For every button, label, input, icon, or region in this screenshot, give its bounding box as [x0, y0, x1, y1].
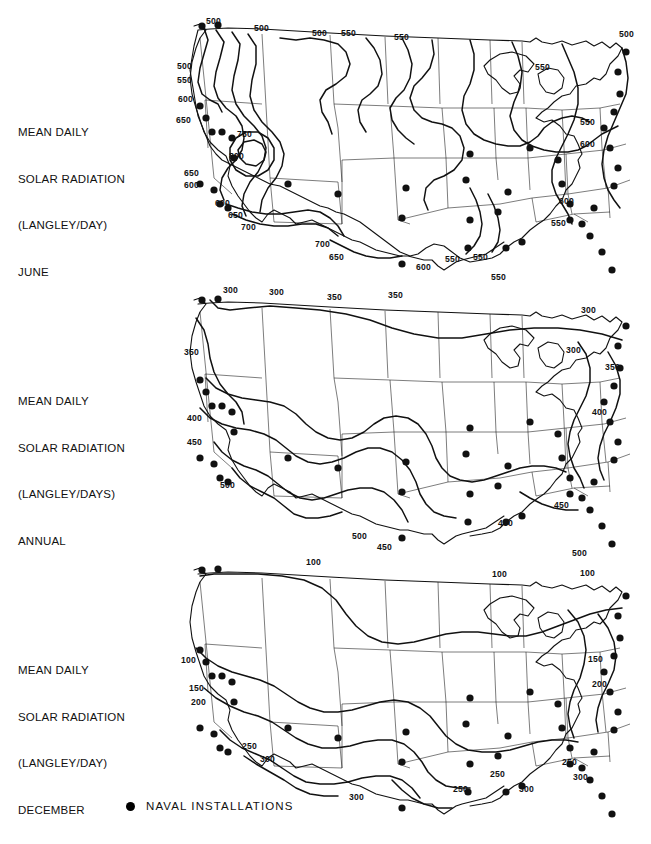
svg-text:550: 550: [177, 75, 192, 85]
svg-text:500: 500: [177, 61, 192, 71]
caption-line: (LANGLEY/DAY): [18, 218, 125, 234]
map-june[interactable]: 500 500 500 550 550 500 550 500 550 600 …: [170, 8, 651, 286]
svg-text:450: 450: [554, 500, 569, 510]
svg-text:250: 250: [490, 769, 505, 779]
map-annual[interactable]: 300 300 350 350 300 350 300 350 400 400 …: [170, 282, 651, 560]
svg-text:150: 150: [588, 654, 603, 664]
svg-text:400: 400: [592, 407, 607, 417]
legend-label: NAVAL INSTALLATIONS: [146, 800, 293, 812]
svg-text:100: 100: [580, 568, 595, 578]
svg-text:700: 700: [315, 239, 330, 249]
svg-text:600: 600: [184, 180, 199, 190]
legend: NAVAL INSTALLATIONS: [126, 800, 293, 812]
caption-line: SOLAR RADIATION: [18, 710, 125, 726]
svg-text:200: 200: [592, 679, 607, 689]
svg-text:600: 600: [580, 139, 595, 149]
svg-text:600: 600: [559, 196, 574, 206]
svg-text:300: 300: [223, 285, 238, 295]
svg-text:350: 350: [605, 362, 620, 372]
svg-text:450: 450: [187, 437, 202, 447]
svg-text:550: 550: [341, 28, 356, 38]
svg-text:200: 200: [191, 697, 206, 707]
svg-text:550: 550: [580, 117, 595, 127]
svg-text:500: 500: [220, 480, 235, 490]
svg-text:600: 600: [178, 94, 193, 104]
svg-text:500: 500: [206, 16, 221, 26]
svg-text:550: 550: [445, 254, 460, 264]
svg-text:600: 600: [215, 198, 230, 208]
svg-text:300: 300: [269, 287, 284, 297]
svg-text:150: 150: [189, 683, 204, 693]
caption-line: MEAN DAILY: [18, 663, 125, 679]
caption-line: ANNUAL: [18, 534, 125, 550]
panel-caption-annual: MEAN DAILY SOLAR RADIATION (LANGLEY/DAYS…: [18, 363, 125, 580]
map-december[interactable]: 100 100 100 100 150 200 150 200 250 300 …: [170, 552, 651, 820]
svg-text:600: 600: [416, 262, 431, 272]
svg-text:650: 650: [176, 115, 191, 125]
svg-text:300: 300: [581, 305, 596, 315]
caption-line: SOLAR RADIATION: [18, 172, 125, 188]
caption-line: (LANGLEY/DAYS): [18, 487, 125, 503]
naval-installation-marker-icon: [126, 802, 135, 811]
svg-text:100: 100: [492, 569, 507, 579]
svg-text:350: 350: [327, 292, 342, 302]
caption-line: (LANGLEY/DAY): [18, 756, 125, 772]
svg-text:500: 500: [619, 29, 634, 39]
svg-text:300: 300: [349, 792, 364, 802]
svg-text:550: 550: [473, 252, 488, 262]
svg-text:400: 400: [187, 413, 202, 423]
caption-line: MEAN DAILY: [18, 394, 125, 410]
caption-line: JUNE: [18, 265, 125, 281]
contour-labels-annual: 300 300 350 350 300 350 300 350 400 400 …: [184, 285, 620, 560]
svg-text:650: 650: [329, 252, 344, 262]
caption-line: DECEMBER: [18, 803, 125, 819]
svg-text:350: 350: [184, 347, 199, 357]
svg-text:350: 350: [388, 290, 403, 300]
panel-caption-june: MEAN DAILY SOLAR RADIATION (LANGLEY/DAY)…: [18, 94, 125, 311]
svg-text:300: 300: [519, 784, 534, 794]
svg-text:550: 550: [535, 62, 550, 72]
panel-caption-december: MEAN DAILY SOLAR RADIATION (LANGLEY/DAY)…: [18, 632, 125, 844]
svg-text:700: 700: [241, 222, 256, 232]
svg-text:650: 650: [184, 168, 199, 178]
svg-text:550: 550: [551, 218, 566, 228]
svg-text:500: 500: [312, 28, 327, 38]
contour-labels-june: 500 500 500 550 550 500 550 500 550 600 …: [176, 16, 634, 282]
svg-text:450: 450: [377, 542, 392, 552]
svg-text:100: 100: [181, 655, 196, 665]
svg-text:100: 100: [306, 557, 321, 567]
svg-text:500: 500: [254, 23, 269, 33]
svg-text:800: 800: [229, 151, 244, 161]
svg-text:650: 650: [228, 210, 243, 220]
svg-text:550: 550: [394, 32, 409, 42]
document-page: MEAN DAILY SOLAR RADIATION (LANGLEY/DAY)…: [0, 0, 651, 844]
svg-text:250: 250: [242, 741, 257, 751]
svg-text:250: 250: [453, 784, 468, 794]
svg-text:500: 500: [352, 531, 367, 541]
svg-text:450: 450: [498, 518, 513, 528]
caption-line: MEAN DAILY: [18, 125, 125, 141]
svg-text:300: 300: [566, 345, 581, 355]
svg-text:250: 250: [562, 757, 577, 767]
svg-text:300: 300: [260, 754, 275, 764]
svg-text:300: 300: [573, 772, 588, 782]
caption-line: SOLAR RADIATION: [18, 441, 125, 457]
svg-text:550: 550: [491, 272, 506, 282]
svg-text:750: 750: [237, 129, 252, 139]
